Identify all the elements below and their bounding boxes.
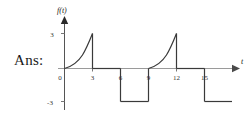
x-ticklabel-6: 6 [119,74,123,82]
waveform-exp-segment-2 [149,34,177,69]
y-ticklabel-neg3: -3 [47,99,53,107]
y-axis-arrow-icon [61,16,68,24]
x-ticklabel-3: 3 [91,74,95,82]
y-axis-label: f(t) [57,6,67,15]
answer-prefix-label: Ans: [14,52,44,69]
x-axis-arrow-icon [232,65,240,72]
x-ticklabel-9: 9 [147,74,151,82]
x-ticklabel-0: 0 [58,74,62,82]
x-axis-label: t [241,57,244,66]
x-ticklabel-15: 15 [201,74,209,82]
y-ticklabel-3: 3 [50,31,54,39]
figure-container: Ans: [0,0,250,117]
x-ticklabel-12: 12 [173,74,181,82]
waveform-exp-segment-1 [65,34,93,69]
